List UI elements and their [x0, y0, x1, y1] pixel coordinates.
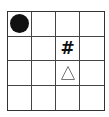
cell-3-2[interactable] [56, 86, 80, 111]
cell-0-2[interactable] [56, 12, 80, 37]
cell-0-0[interactable] [8, 12, 32, 37]
cell-3-3[interactable] [80, 86, 104, 111]
cell-1-0[interactable] [8, 37, 32, 62]
filled-circle-icon [10, 14, 29, 33]
hash-icon: # [60, 40, 74, 57]
cell-2-2[interactable] [56, 61, 80, 86]
cell-1-1[interactable] [32, 37, 56, 62]
cell-1-3[interactable] [80, 37, 104, 62]
outlined-triangle-icon [60, 65, 76, 81]
game-board: # [7, 11, 105, 111]
cell-0-1[interactable] [32, 12, 56, 37]
cell-2-0[interactable] [8, 61, 32, 86]
cell-3-0[interactable] [8, 86, 32, 111]
cell-2-1[interactable] [32, 61, 56, 86]
cell-1-2[interactable]: # [56, 37, 80, 62]
cell-3-1[interactable] [32, 86, 56, 111]
cell-2-3[interactable] [80, 61, 104, 86]
cell-0-3[interactable] [80, 12, 104, 37]
